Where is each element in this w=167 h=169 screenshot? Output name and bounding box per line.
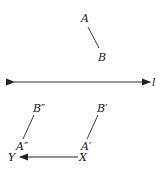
segment-ab [88, 27, 99, 48]
segment-a-double-b-double [23, 115, 34, 139]
label-a: A [80, 12, 89, 25]
label-b-double: B″ [32, 102, 46, 115]
label-x: X [78, 151, 88, 164]
segment-a-prime-b-prime [87, 115, 98, 139]
label-b-prime: B′ [96, 102, 108, 115]
label-b: B [97, 51, 106, 64]
label-l: l [152, 76, 156, 89]
geometry-diagram: A B l B′ A′ B″ A″ X Y [0, 0, 167, 169]
label-a-double: A″ [15, 140, 29, 153]
